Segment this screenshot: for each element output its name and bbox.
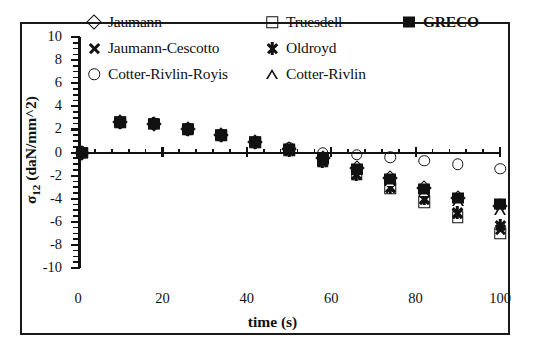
y-tick-minor [73,123,78,125]
filled-square-marker-icon [213,127,229,143]
y-tick-minor [73,48,78,50]
y-tick-minor [73,250,78,252]
filled-square-marker-icon [382,171,398,187]
legend-entry: GRECO [401,10,479,34]
y-tick-minor [73,169,78,171]
y-tick-minor [73,54,78,56]
y-tick-major [71,244,80,246]
y-tick-minor [73,238,78,240]
circle-marker-icon [492,161,508,177]
y-tick-minor [73,117,78,119]
star-marker-icon [264,40,280,56]
y-tick-major [71,105,80,107]
x-tick-minor [465,149,467,154]
circle-marker-icon [416,153,432,169]
y-axis-title-units: (daN/mm^2) [22,96,39,185]
filled-square-marker-icon [74,145,90,161]
x-tick-label: 100 [480,290,520,307]
x-tick-label: 40 [227,290,267,307]
filled-square-marker-icon [281,141,297,157]
triangle-marker-icon [264,66,280,82]
y-tick-major [71,198,80,200]
filled-square-marker-icon [492,196,508,212]
filled-square-marker-icon [247,134,263,150]
x-marker-icon [86,40,102,56]
square-marker-icon [264,14,280,30]
legend-entry: Jaumann [86,10,162,34]
filled-square-marker-icon [416,181,432,197]
legend-entry-label: Jaumann-Cescotto [108,39,219,57]
y-tick-minor [73,94,78,96]
filled-square-marker-icon [180,121,196,137]
y-tick-minor [73,88,78,90]
x-tick-minor [482,149,484,154]
legend-entry-label: Truesdell [286,13,342,31]
y-tick-major [71,128,80,130]
legend-entry: Jaumann-Cescotto [86,36,219,60]
x-tick-minor [94,149,96,154]
legend-entry: Oldroyd [264,36,336,60]
y-tick-minor [73,227,78,229]
y-tick-minor [73,71,78,73]
circle-marker-icon [86,66,102,82]
y-tick-minor [73,77,78,79]
y-tick-major [71,221,80,223]
filled-square-marker-icon [146,116,162,132]
y-tick-minor [73,100,78,102]
y-tick-minor [73,256,78,258]
x-tick-label: 80 [396,290,436,307]
x-tick-minor [212,149,214,154]
legend-entry-label: Oldroyd [286,39,336,57]
x-tick-minor [145,149,147,154]
y-tick-major [71,82,80,84]
y-axis-title-symbol: σ [22,196,39,204]
legend-entry-label: Cotter-Rivlin-Royis [108,65,228,83]
y-tick-minor [73,42,78,44]
x-tick-major [499,147,501,157]
y-tick-minor [73,233,78,235]
legend-entry-label: Jaumann [108,13,162,31]
legend-entry: Truesdell [264,10,342,34]
x-tick-minor [128,149,130,154]
legend-entry-label: GRECO [423,13,479,31]
y-tick-major [71,175,80,177]
x-tick-minor [449,149,451,154]
circle-marker-icon [382,149,398,165]
filled-square-marker-icon [401,14,417,30]
y-tick-minor [73,65,78,67]
legend-entry: Cotter-Rivlin [264,62,366,86]
y-tick-minor [73,181,78,183]
x-axis-title: time (s) [0,313,545,331]
y-tick-minor [73,111,78,113]
figure-container: 1086420-2-4-6-8-10 020406080100 σ12 (daN… [0,0,545,351]
y-tick-minor [73,261,78,263]
filled-square-marker-icon [349,161,365,177]
chart-legend: JaumannTruesdellGRECOJaumann-CescottoOld… [86,10,506,90]
y-axis-title-subscript: 12 [30,185,42,196]
x-tick-minor [111,149,113,154]
y-tick-minor [73,215,78,217]
legend-entry: Cotter-Rivlin-Royis [86,62,228,86]
x-tick-minor [229,149,231,154]
y-tick-minor [73,192,78,194]
x-tick-label: 20 [142,290,182,307]
filled-square-marker-icon [112,114,128,130]
y-tick-major [71,59,80,61]
diamond-marker-icon [86,14,102,30]
star-marker-icon [492,217,508,233]
y-axis-title: σ12 (daN/mm^2) [22,40,42,260]
y-tick-minor [73,163,78,165]
y-tick-major [71,267,80,269]
y-tick-minor [73,140,78,142]
y-tick-major [71,36,80,38]
x-tick-major [161,147,163,157]
x-tick-label: 0 [58,290,98,307]
x-tick-label: 60 [311,290,351,307]
y-tick-minor [73,209,78,211]
y-tick-label: -10 [36,259,62,276]
y-tick-minor [73,134,78,136]
y-tick-minor [73,186,78,188]
x-tick-minor [195,149,197,154]
filled-square-marker-icon [450,190,466,206]
y-tick-minor [73,204,78,206]
